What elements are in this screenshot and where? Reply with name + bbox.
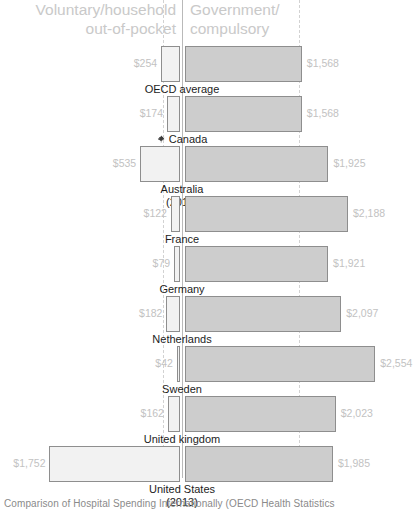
value-label-out-of-pocket: $1,752 xyxy=(13,457,45,469)
bar-pair: $79$1,921 xyxy=(0,246,415,282)
bar-government-compulsory xyxy=(185,146,328,182)
category-label-text: OECD average xyxy=(145,83,220,95)
bar-government-compulsory xyxy=(185,346,375,382)
category-label-text: Canada xyxy=(169,133,208,145)
hospital-spending-diverging-bar-chart: Voluntary/household out-of-pocket Govern… xyxy=(0,0,415,509)
bar-out-of-pocket xyxy=(177,346,180,382)
category-label-text: Germany xyxy=(159,283,204,295)
category-label: OECD average xyxy=(0,83,415,96)
category-label-text: France xyxy=(165,233,199,245)
value-label-government-compulsory: $2,023 xyxy=(341,407,373,419)
bar-pair: $254$1,568 xyxy=(0,46,415,82)
source-caption: Comparison of Hospital Spending Internat… xyxy=(0,497,415,509)
value-label-government-compulsory: $1,568 xyxy=(307,57,339,69)
category-label-text: United kingdom xyxy=(144,433,220,445)
bar-government-compulsory xyxy=(185,46,302,82)
bar-out-of-pocket xyxy=(171,196,180,232)
bar-pair: $122$2,188 xyxy=(0,196,415,232)
bar-pair: $182$2,097 xyxy=(0,296,415,332)
category-label: Germany xyxy=(0,283,415,296)
legend-label-government-line1: Government/ xyxy=(190,0,405,19)
value-label-out-of-pocket: $254 xyxy=(134,57,157,69)
bar-government-compulsory xyxy=(185,196,348,232)
legend-label-out-of-pocket-line1: Voluntary/household xyxy=(0,0,176,19)
legend-label-government-line2: compulsory xyxy=(190,19,405,38)
value-label-out-of-pocket: $535 xyxy=(113,157,136,169)
category-label-text: Australia xyxy=(161,183,204,195)
legend-label-out-of-pocket: Voluntary/household out-of-pocket xyxy=(0,0,176,38)
bar-pair: $162$2,023 xyxy=(0,396,415,432)
value-label-government-compulsory: $1,985 xyxy=(338,457,370,469)
category-label-text: Sweden xyxy=(162,383,202,395)
value-label-out-of-pocket: $174 xyxy=(140,107,163,119)
category-label: Canada xyxy=(0,133,415,147)
value-label-government-compulsory: $1,921 xyxy=(333,257,365,269)
category-label: United kingdom xyxy=(0,433,415,446)
category-label: Netherlands xyxy=(0,333,415,346)
bar-government-compulsory xyxy=(185,96,302,132)
bar-pair: $174$1,568 xyxy=(0,96,415,132)
value-label-out-of-pocket: $42 xyxy=(155,357,173,369)
value-label-out-of-pocket: $182 xyxy=(139,307,162,319)
value-label-out-of-pocket: $122 xyxy=(144,207,167,219)
legend-label-out-of-pocket-line2: out-of-pocket xyxy=(0,19,176,38)
value-label-government-compulsory: $2,554 xyxy=(380,357,412,369)
bar-government-compulsory xyxy=(185,396,336,432)
bar-out-of-pocket xyxy=(161,46,180,82)
bar-government-compulsory xyxy=(185,296,341,332)
category-label-text: United States xyxy=(149,483,215,495)
value-label-government-compulsory: $2,188 xyxy=(353,207,385,219)
value-label-out-of-pocket: $79 xyxy=(153,257,171,269)
bar-pair: $535$1,925 xyxy=(0,146,415,182)
legend-label-government-compulsory: Government/ compulsory xyxy=(190,0,405,38)
category-label-text: Netherlands xyxy=(152,333,211,345)
bar-out-of-pocket xyxy=(140,146,180,182)
bar-government-compulsory xyxy=(185,446,333,482)
value-label-government-compulsory: $2,097 xyxy=(346,307,378,319)
value-label-out-of-pocket: $162 xyxy=(141,407,164,419)
bar-out-of-pocket xyxy=(168,396,180,432)
category-label: France xyxy=(0,233,415,246)
value-label-government-compulsory: $1,925 xyxy=(333,157,365,169)
bar-pair: $1,752$1,985 xyxy=(0,446,415,482)
value-label-government-compulsory: $1,568 xyxy=(307,107,339,119)
bar-out-of-pocket xyxy=(174,246,180,282)
bar-out-of-pocket xyxy=(49,446,180,482)
bar-government-compulsory xyxy=(185,246,328,282)
category-label: Sweden xyxy=(0,383,415,396)
bar-pair: $42$2,554 xyxy=(0,346,415,382)
bar-out-of-pocket xyxy=(166,296,180,332)
bar-out-of-pocket xyxy=(167,96,180,132)
